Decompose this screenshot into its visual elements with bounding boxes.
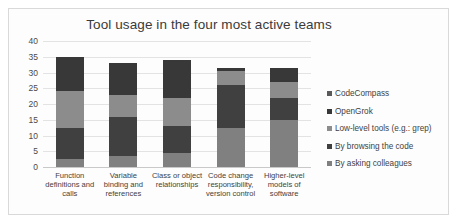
legend-item[interactable]: Low-level tools (e.g.: grep) [327,124,457,133]
bar-group[interactable]: Higher-levelmodels ofsoftware [270,68,298,167]
x-axis-category-label-line: calls [40,189,100,198]
x-axis-category-label: Variablebinding andreferences [94,171,154,199]
bar-segment[interactable] [109,63,137,95]
chart-title: Tool usage in the four most active teams [49,17,369,32]
legend-item-label: OpenGrok [335,107,373,116]
legend-swatch-icon [327,109,332,114]
bar-segment[interactable] [163,98,191,126]
plot-area: 0510152025303540Functiondefinitions andc… [43,41,311,167]
x-axis-category-label-line: Class or object [147,171,207,180]
bar-segment[interactable] [109,156,137,167]
y-axis-tick-label: 30 [29,68,38,78]
bar-segment[interactable] [163,153,191,167]
x-axis-line [43,167,311,168]
bar-segment[interactable] [56,57,84,92]
legend-item[interactable]: CodeCompass [327,89,457,98]
y-axis-tick-label: 20 [29,99,38,109]
y-axis-tick-label: 35 [29,52,38,62]
bar-segment[interactable] [163,60,191,98]
legend-swatch-icon [327,126,332,131]
x-axis-category-label: Functiondefinitions andcalls [40,171,100,199]
legend-item-label: By browsing the code [335,142,413,151]
bar-group[interactable]: Class or objectrelationships [163,60,191,167]
bar-segment[interactable] [56,128,84,160]
gridline [43,41,311,42]
plot-inner: 0510152025303540Functiondefinitions andc… [43,41,311,167]
bar-segment[interactable] [217,71,245,85]
y-axis-tick-label: 15 [29,115,38,125]
x-axis-category-label-line: responsibility, [201,180,261,189]
bar-segment[interactable] [270,68,298,82]
legend-item-label: By asking colleagues [335,159,412,168]
x-axis-category-label-line: binding and [94,180,154,189]
x-axis-category-label-line: version control [201,189,261,198]
bar-segment[interactable] [270,98,298,120]
bar-segment[interactable] [56,159,84,167]
bar-group[interactable]: Variablebinding andreferences [109,63,137,167]
x-axis-category-label-line: definitions and [40,180,100,189]
chart-container: Tool usage in the four most active teams… [8,8,449,215]
bar-segment[interactable] [109,95,137,117]
bar-segment[interactable] [270,82,298,98]
y-axis-tick-label: 10 [29,131,38,141]
bar-segment[interactable] [109,117,137,156]
legend-item-label: CodeCompass [335,89,389,98]
x-axis-category-label-line: Function [40,171,100,180]
bar-group[interactable]: Functiondefinitions andcalls [56,57,84,167]
legend-swatch-icon [327,144,332,149]
legend-item-label: Low-level tools (e.g.: grep) [335,124,431,133]
bar-segment[interactable] [270,120,298,167]
bar-group[interactable]: Code changeresponsibility,version contro… [217,68,245,167]
bar-segment[interactable] [163,126,191,153]
x-axis-category-label-line: Variable [94,171,154,180]
legend-swatch-icon [327,161,332,166]
legend-item[interactable]: By asking colleagues [327,159,457,168]
bar-segment[interactable] [217,85,245,128]
x-axis-category-label: Class or objectrelationships [147,171,207,189]
x-axis-category-label-line: relationships [147,180,207,189]
legend-item[interactable]: By browsing the code [327,142,457,151]
y-axis-tick-label: 40 [29,36,38,46]
x-axis-category-label: Higher-levelmodels ofsoftware [254,171,314,199]
y-axis-tick-label: 0 [33,162,38,172]
x-axis-category-label-line: references [94,189,154,198]
y-axis-tick-label: 5 [33,146,38,156]
x-axis-category-label-line: Higher-level [254,171,314,180]
x-axis-category-label: Code changeresponsibility,version contro… [201,171,261,199]
bar-segment[interactable] [56,91,84,127]
x-axis-category-label-line: Code change [201,171,261,180]
chart-legend: CodeCompassOpenGrokLow-level tools (e.g.… [327,89,457,177]
x-axis-category-label-line: models of [254,180,314,189]
legend-item[interactable]: OpenGrok [327,107,457,116]
bar-segment[interactable] [217,128,245,167]
x-axis-category-label-line: software [254,189,314,198]
legend-swatch-icon [327,91,332,96]
y-axis-tick-label: 25 [29,83,38,93]
